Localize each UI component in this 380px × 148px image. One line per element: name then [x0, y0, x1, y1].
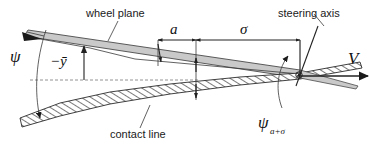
wheel-plane-label: wheel plane — [85, 7, 145, 19]
steering-axis-label-group: steering axis — [278, 7, 340, 19]
dimension-a-label: a — [170, 21, 178, 37]
psi-symbol: ψ — [10, 47, 21, 66]
steering-axis-label: steering axis — [278, 7, 340, 19]
y-offset-label: −ȳ — [50, 53, 67, 69]
wheel-plane-geometry-diagram: ψ −ȳ a σ ψ a+σ V — [0, 0, 380, 148]
psi-a-sigma-subscript: a+σ — [270, 126, 286, 136]
contact-line-label: contact line — [110, 128, 166, 140]
dimension-sigma-label: σ — [240, 21, 248, 37]
psi-a-sigma-symbol: ψ — [258, 113, 269, 132]
